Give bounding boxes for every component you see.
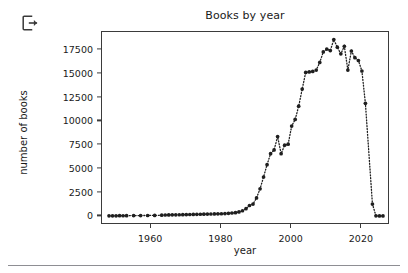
chart-title: Books by year [101,9,389,22]
x-tick-mark [150,224,151,228]
data-point [118,214,122,218]
data-point [332,38,336,42]
data-point [353,56,357,60]
x-tick-mark [220,224,221,228]
data-point [216,212,220,216]
data-point [339,52,343,56]
data-point [202,212,206,216]
data-point [307,70,311,74]
data-point [132,214,136,218]
data-point [160,213,164,217]
data-point [213,212,217,216]
data-point [311,70,315,74]
data-point [321,50,325,54]
data-point [195,213,199,217]
data-point [293,118,297,122]
y-tick-label: 17500 [63,44,93,55]
data-point [139,214,143,218]
x-tick-label: 1980 [208,233,232,244]
data-point [300,87,304,91]
data-point [262,175,266,179]
data-point [269,152,273,156]
data-point [237,210,241,214]
data-point [241,209,245,213]
page-root: Books by year number of books 0250050007… [0,0,408,273]
data-point [342,44,346,48]
x-tick-mark [290,224,291,228]
data-point [297,104,301,108]
plot-frame [101,31,389,224]
plot-area [102,32,388,223]
data-point [357,59,361,63]
data-point [125,214,129,218]
data-point [258,187,262,191]
data-point [230,211,234,215]
data-point [220,212,224,216]
data-point [174,213,178,217]
data-point [206,212,210,216]
x-tick-label: 2020 [349,233,373,244]
data-point [364,101,368,105]
data-point [255,196,259,200]
data-point [184,213,188,217]
data-point [328,49,332,53]
data-point [244,207,248,211]
x-axis: year 1960198020002020 [101,224,389,258]
data-point [198,212,202,216]
y-axis: number of books 025005000750010000125001… [0,31,101,224]
data-point [234,211,238,215]
chart-figure: Books by year number of books 0250050007… [0,0,408,258]
data-point [290,124,294,128]
data-point [181,213,185,217]
data-point [286,142,290,146]
data-point [153,214,157,218]
data-point [163,213,167,217]
data-point [111,214,115,218]
y-tick-label: 2500 [69,186,93,197]
series-line [109,40,383,216]
x-axis-label: year [101,245,389,256]
data-point [248,204,252,208]
data-point [121,214,125,218]
data-point [381,214,385,218]
series-books-by-year [102,32,388,223]
data-point [227,211,231,215]
data-point [251,202,255,206]
data-point [279,152,283,156]
data-point [107,214,111,218]
data-point [325,47,329,51]
data-point [191,213,195,217]
data-point [209,212,213,216]
data-point [304,71,308,75]
data-point [371,202,375,206]
data-point [318,61,322,65]
data-point [272,148,276,152]
data-point [314,68,318,72]
y-axis-label: number of books [18,48,29,218]
data-point [265,163,269,167]
x-tick-mark [360,224,361,228]
bottom-divider [8,265,400,266]
data-point [283,143,287,147]
data-point [170,213,174,217]
data-point [188,213,192,217]
y-tick-label: 12500 [63,91,93,102]
data-point [177,213,181,217]
y-tick-label: 5000 [69,162,93,173]
y-tick-label: 7500 [69,139,93,150]
data-point [223,212,227,216]
x-tick-label: 1960 [138,233,162,244]
data-point [346,68,350,72]
data-point [146,214,150,218]
data-point [374,214,378,218]
x-tick-label: 2000 [279,233,303,244]
y-tick-label: 0 [87,210,93,221]
data-point [276,135,280,139]
data-point [167,213,171,217]
y-tick-label: 10000 [63,115,93,126]
data-point [378,214,382,218]
data-point [114,214,118,218]
data-point [360,69,364,73]
data-point [335,45,339,49]
y-tick-label: 15000 [63,67,93,78]
